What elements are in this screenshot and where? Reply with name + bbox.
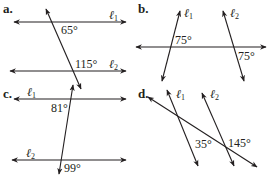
line-l1-label: ℓ1 (184, 6, 193, 21)
angle-label-1: 81° (51, 101, 68, 115)
panel-b-label: b. (138, 1, 148, 16)
panel-b: b. ℓ1 ℓ2 75° 75° (136, 1, 266, 81)
line-l2 (223, 11, 244, 81)
panel-a: a. ℓ1 ℓ2 65° 115° (3, 1, 126, 89)
transversal (148, 97, 257, 167)
line-l2-label: ℓ2 (210, 87, 219, 102)
panel-d: d. ℓ1 ℓ2 35° 145° (138, 86, 257, 167)
angle-label-2: 99° (64, 161, 81, 175)
line-l2 (202, 93, 234, 166)
angle-label-1: 75° (175, 33, 192, 47)
transversal (46, 9, 81, 89)
parallel-lines-diagram: a. ℓ1 ℓ2 65° 115° b. ℓ1 ℓ2 75° 75° c. ℓ1… (0, 0, 269, 177)
panel-c: c. ℓ1 ℓ2 81° 99° (3, 85, 126, 175)
line-l2-label: ℓ2 (230, 6, 239, 21)
panel-c-label: c. (3, 86, 12, 101)
line-l1-label: ℓ1 (27, 85, 36, 100)
line-l2-label: ℓ2 (109, 57, 118, 72)
angle-label-2: 145° (228, 136, 251, 150)
panel-a-label: a. (3, 1, 13, 16)
angle-label-1: 35° (195, 137, 212, 151)
line-l1-label: ℓ1 (109, 8, 118, 23)
line-l2-label: ℓ2 (26, 146, 35, 161)
line-l1-label: ℓ1 (176, 87, 185, 102)
angle-label-2: 75° (238, 49, 255, 63)
angle-label-2: 115° (75, 57, 98, 71)
panel-d-label: d. (138, 86, 148, 101)
angle-label-1: 65° (61, 23, 78, 37)
